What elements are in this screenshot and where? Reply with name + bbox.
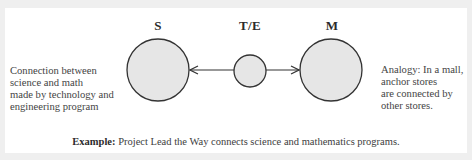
left-description-line: Connection between [10,65,114,77]
left-description-line: engineering program [10,101,114,113]
left-description-line: made by technology and [10,89,114,101]
node-s-circle [127,39,189,101]
caption-label: Example: [72,136,115,147]
caption-text: Project Lead the Way connects science an… [116,136,400,147]
right-analogy-line: are connected by [381,88,463,100]
right-analogy: Analogy: In a mall, anchor stores are co… [381,64,463,112]
example-caption: Example: Project Lead the Way connects s… [0,136,472,147]
node-s-label: S [154,18,162,34]
right-analogy-line: other stores. [381,100,463,112]
node-te-label: T/E [239,18,261,34]
right-analogy-line: Analogy: In a mall, [381,64,463,76]
left-description-line: science and math [10,77,114,89]
node-m-label: M [326,18,339,34]
node-m-circle [300,39,362,101]
right-analogy-line: anchor stores [381,76,463,88]
node-te-circle [234,55,266,87]
left-description: Connection between science and math made… [10,65,114,113]
